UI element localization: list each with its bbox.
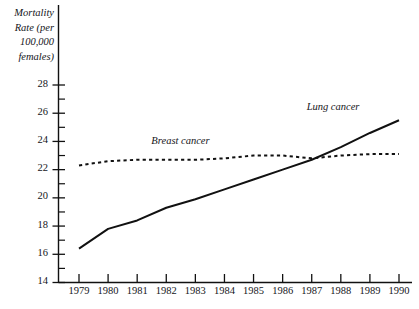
series-line-breast-cancer [79, 154, 399, 165]
y-tick-label-24: 24 [24, 134, 48, 145]
x-axis-ticks [79, 274, 399, 283]
chart-canvas [0, 0, 419, 309]
series-label-breast-cancer: Breast cancer [151, 135, 209, 146]
y-tick-label-26: 26 [24, 106, 48, 117]
y-axis-minor-ticks [59, 99, 66, 268]
y-tick-label-14: 14 [24, 275, 48, 286]
x-tick-label-1990: 1990 [382, 285, 416, 296]
y-tick-label-22: 22 [24, 162, 48, 173]
series-label-lung-cancer: Lung cancer [307, 101, 360, 112]
y-tick-label-18: 18 [24, 219, 48, 230]
axis-lines [59, 5, 413, 283]
series-line-lung-cancer [79, 120, 399, 248]
y-tick-label-20: 20 [24, 190, 48, 201]
y-tick-label-28: 28 [24, 78, 48, 89]
mortality-rate-line-chart: Mortality Rate (per 100,000 females) 141… [0, 0, 419, 309]
y-tick-label-16: 16 [24, 247, 48, 258]
